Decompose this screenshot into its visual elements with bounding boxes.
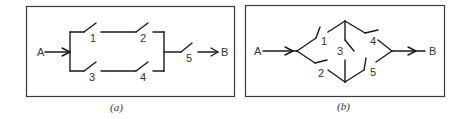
node-a-label: A [37, 46, 45, 58]
node-b-label: B [221, 46, 228, 58]
switch-4-label: 4 [370, 35, 376, 47]
arrow-right-icon [45, 48, 70, 56]
arrow-right-icon [198, 48, 218, 56]
figure-canvas: A 1 2 3 4 5 B (a) [0, 0, 469, 119]
figure-a: A 1 2 3 4 5 B (a) [27, 7, 235, 115]
switch-4 [136, 62, 148, 71]
switch-1-label: 1 [321, 35, 327, 47]
arrow-right-icon [392, 47, 425, 55]
switch-2-label: 2 [318, 67, 324, 79]
switch-4 [365, 30, 378, 33]
figure-b: A 1 2 3 4 5 B (b) [246, 6, 445, 114]
switch-1 [84, 23, 96, 32]
switch-5 [181, 43, 192, 52]
switch-1-label: 1 [90, 32, 96, 44]
figure-a-caption: (a) [110, 101, 123, 114]
switch-5 [364, 58, 366, 70]
switch-5-label: 5 [370, 66, 376, 78]
switch-4-label: 4 [140, 71, 146, 83]
switch-2-label: 2 [140, 32, 146, 44]
switch-2 [136, 23, 148, 32]
switch-2 [315, 60, 327, 63]
arrow-right-icon [263, 47, 297, 55]
figure-b-caption: (b) [337, 100, 350, 113]
switch-3 [84, 62, 96, 71]
node-a-label: A [254, 45, 262, 57]
switch-3-label: 3 [89, 71, 95, 83]
switch-5-label: 5 [186, 52, 192, 64]
switch-1 [316, 27, 320, 38]
switch-3-label: 3 [337, 45, 343, 57]
switch-3 [345, 40, 354, 51]
node-b-label: B [429, 45, 436, 57]
